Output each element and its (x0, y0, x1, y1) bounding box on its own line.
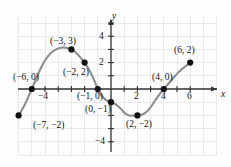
data-point (82, 60, 88, 66)
y-tick-label-2: 2 (99, 58, 104, 68)
y-axis-label: y (112, 12, 116, 22)
data-point (187, 60, 193, 66)
x-tick-label-4: 4 (161, 92, 166, 102)
x-tick-label-2: 2 (134, 92, 139, 102)
point-label-6-2: (6, 2) (174, 46, 195, 56)
y-tick-label-neg4: −4 (95, 137, 105, 147)
point-label-neg7-neg2: (−7, −2) (33, 121, 64, 131)
graph-figure: x y −4 2 4 6 4 2 −4 (−7, −2) (−6, 0) (−3… (0, 0, 231, 167)
x-tick-label-neg4: −4 (38, 92, 48, 102)
point-label-2-neg2: (2, −2) (126, 120, 152, 130)
point-label-0-neg1: (0, −1) (85, 105, 111, 115)
data-point (134, 112, 140, 118)
point-label-neg1-0: (−1, 0) (77, 92, 103, 102)
point-label-neg6-0: (−6, 0) (13, 73, 39, 83)
x-axis-label: x (221, 90, 225, 100)
x-tick-label-6: 6 (187, 92, 192, 102)
data-point (68, 46, 74, 52)
data-point (16, 112, 22, 118)
point-label-neg2-2: (−2, 2) (63, 68, 89, 78)
point-label-4-0: (4, 0) (152, 73, 173, 83)
y-tick-label-4: 4 (99, 32, 104, 42)
data-point (29, 86, 35, 92)
point-label-neg3-3: (−3, 3) (50, 37, 76, 47)
coordinate-plane-svg (0, 0, 231, 167)
